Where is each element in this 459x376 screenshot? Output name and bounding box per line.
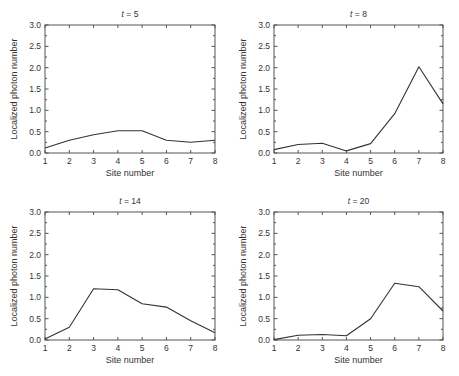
- x-tick-label: 1: [43, 343, 48, 353]
- y-tick-label: 1.0: [29, 292, 41, 302]
- x-tick-label: 5: [368, 343, 373, 353]
- y-tick-label: 0.0: [258, 148, 270, 158]
- y-tick-label: 2.5: [29, 228, 41, 238]
- y-tick-label: 2.5: [258, 41, 270, 51]
- y-tick-label: 0.5: [258, 127, 270, 137]
- data-line: [274, 67, 443, 151]
- x-tick-label: 6: [392, 156, 397, 166]
- y-tick-label: 1.0: [258, 105, 270, 115]
- y-tick-label: 3.0: [258, 207, 270, 217]
- y-tick-label: 3.0: [258, 20, 270, 30]
- chart-title: t = 14: [119, 196, 141, 206]
- x-tick-label: 2: [67, 156, 72, 166]
- y-tick-label: 0.0: [29, 148, 41, 158]
- x-tick-label: 8: [213, 156, 218, 166]
- x-tick-label: 3: [320, 156, 325, 166]
- x-tick-label: 4: [344, 156, 349, 166]
- y-tick-label: 3.0: [29, 20, 41, 30]
- data-line: [45, 289, 215, 339]
- chart-title: t = 8: [350, 9, 367, 19]
- x-tick-label: 1: [272, 156, 277, 166]
- figure-4-panel-line-charts: 123456780.00.51.01.52.02.53.0t = 5Site n…: [0, 0, 459, 376]
- y-axis-label: Localized photon number: [238, 38, 248, 139]
- y-tick-label: 1.0: [29, 105, 41, 115]
- x-tick-label: 7: [188, 343, 193, 353]
- x-tick-label: 5: [140, 156, 145, 166]
- x-axis-label: Site number: [334, 168, 383, 178]
- x-tick-label: 1: [43, 156, 48, 166]
- y-tick-label: 1.5: [29, 271, 41, 281]
- data-line: [274, 283, 443, 339]
- x-tick-label: 4: [115, 156, 120, 166]
- x-tick-label: 7: [416, 343, 421, 353]
- y-tick-label: 1.5: [29, 84, 41, 94]
- x-tick-label: 6: [164, 343, 169, 353]
- x-tick-label: 1: [272, 343, 277, 353]
- x-tick-label: 2: [296, 156, 301, 166]
- x-axis-label: Site number: [106, 355, 155, 365]
- chart-panel-t-8: 123456780.00.51.01.52.02.53.0t = 8Site n…: [238, 9, 446, 178]
- plot-frame: [45, 25, 215, 153]
- chart-panel-t-14: 123456780.00.51.01.52.02.53.0t = 14Site …: [9, 196, 218, 365]
- y-axis-label: Localized photon number: [9, 38, 19, 139]
- y-tick-label: 0.5: [29, 314, 41, 324]
- chart-title: t = 5: [122, 9, 139, 19]
- x-tick-label: 8: [213, 343, 218, 353]
- x-tick-label: 5: [140, 343, 145, 353]
- x-tick-label: 7: [188, 156, 193, 166]
- chart-panel-t-20: 123456780.00.51.01.52.02.53.0t = 20Site …: [238, 196, 446, 365]
- y-tick-label: 0.0: [29, 335, 41, 345]
- x-tick-label: 3: [320, 343, 325, 353]
- x-tick-label: 5: [368, 156, 373, 166]
- figure-caption-cropped: [16, 367, 456, 376]
- plot-frame: [274, 212, 443, 340]
- y-tick-label: 0.5: [258, 314, 270, 324]
- plot-frame: [45, 212, 215, 340]
- y-tick-label: 1.0: [258, 292, 270, 302]
- plot-frame: [274, 25, 443, 153]
- x-tick-label: 6: [164, 156, 169, 166]
- y-tick-label: 2.0: [29, 250, 41, 260]
- data-line: [45, 131, 215, 148]
- x-tick-label: 3: [91, 343, 96, 353]
- x-tick-label: 3: [91, 156, 96, 166]
- y-axis-label: Localized photon number: [238, 225, 248, 326]
- x-tick-label: 6: [392, 343, 397, 353]
- x-tick-label: 4: [115, 343, 120, 353]
- x-axis-label: Site number: [334, 355, 383, 365]
- chart-title: t = 20: [348, 196, 370, 206]
- x-axis-label: Site number: [106, 168, 155, 178]
- x-tick-label: 7: [416, 156, 421, 166]
- x-tick-label: 2: [296, 343, 301, 353]
- x-tick-label: 2: [67, 343, 72, 353]
- y-tick-label: 2.5: [258, 228, 270, 238]
- y-tick-label: 1.5: [258, 271, 270, 281]
- x-tick-label: 4: [344, 343, 349, 353]
- y-tick-label: 0.5: [29, 127, 41, 137]
- y-tick-label: 2.0: [29, 63, 41, 73]
- y-tick-label: 2.0: [258, 250, 270, 260]
- x-tick-label: 8: [441, 156, 446, 166]
- y-tick-label: 2.5: [29, 41, 41, 51]
- x-tick-label: 8: [441, 343, 446, 353]
- y-tick-label: 1.5: [258, 84, 270, 94]
- y-axis-label: Localized photon number: [9, 225, 19, 326]
- y-tick-label: 3.0: [29, 207, 41, 217]
- y-tick-label: 0.0: [258, 335, 270, 345]
- chart-panel-t-5: 123456780.00.51.01.52.02.53.0t = 5Site n…: [9, 9, 218, 178]
- y-tick-label: 2.0: [258, 63, 270, 73]
